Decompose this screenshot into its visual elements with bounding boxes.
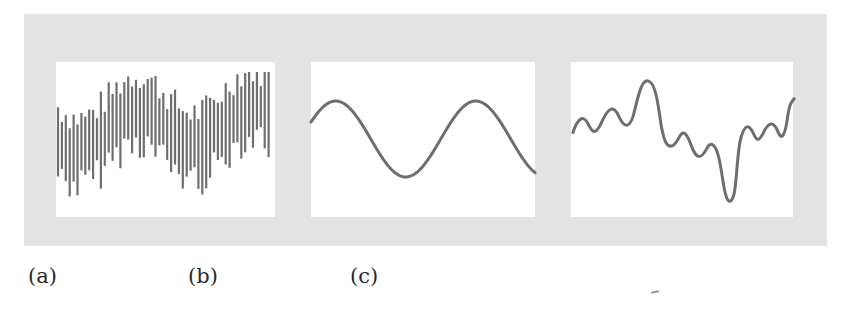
bars-waveform [56,62,275,217]
panel-b-sine-wave [311,62,535,217]
caption-a: (a) [28,264,57,288]
composite-waveform [571,62,793,217]
caption-c: (c) [350,264,378,288]
panel-c-composite-wave [571,62,793,217]
caption-b: (b) [188,264,218,288]
panel-a-sampled-bars [56,62,275,217]
scan-speck [651,290,659,294]
sine-waveform [311,62,535,217]
